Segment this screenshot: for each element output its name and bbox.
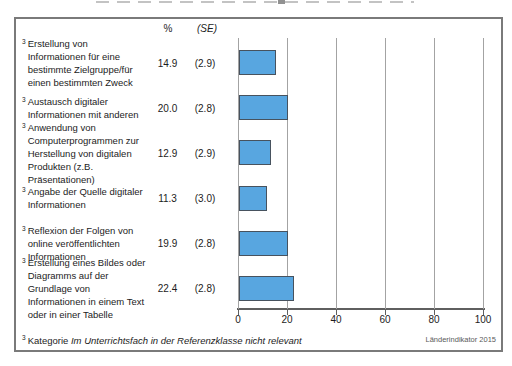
- cropped-title-fragment: [96, 0, 414, 4]
- footnote-regular-text: Kategorie: [28, 335, 71, 346]
- category-label-text: Erstellung von Informationen für eine be…: [28, 37, 133, 89]
- tick-label-100: 100: [475, 314, 492, 325]
- x-axis-line: [237, 308, 485, 310]
- footnote: 3Kategorie Im Unterrichtsfach in der Ref…: [22, 334, 302, 346]
- gridline-0: [238, 38, 239, 309]
- gridline-80: [434, 38, 435, 309]
- category-footnote-marker: 3: [22, 257, 26, 265]
- category-footnote-marker: 3: [22, 225, 26, 233]
- se-value: (2.8): [187, 238, 223, 249]
- bar-row-2: [239, 95, 288, 120]
- tick-label-80: 80: [428, 314, 439, 325]
- cropped-title-text-remnant: [96, 1, 414, 3]
- plot-area: [238, 38, 483, 309]
- se-value: (2.8): [187, 102, 223, 113]
- bar-row-3: [239, 140, 271, 165]
- percent-column-header: %: [158, 23, 178, 34]
- figure-frame: % (SE) 3Erstellung von Informationen für…: [14, 17, 503, 352]
- gridline-100: [483, 38, 484, 309]
- bar-row-5: [239, 231, 288, 256]
- percent-value: 12.9: [152, 147, 183, 158]
- tick-label-60: 60: [379, 314, 390, 325]
- category-footnote-marker: 3: [22, 186, 26, 194]
- se-value: (2.9): [187, 57, 223, 68]
- tick-label-0: 0: [235, 314, 241, 325]
- se-value: (3.0): [187, 193, 223, 204]
- source-label: Länderindikator 2015: [426, 335, 496, 344]
- percent-value: 19.9: [152, 238, 183, 249]
- percent-value: 14.9: [152, 57, 183, 68]
- footnote-marker: 3: [22, 334, 26, 341]
- percent-value: 11.3: [152, 193, 183, 204]
- category-footnote-marker: 3: [22, 96, 26, 104]
- gridline-40: [336, 38, 337, 309]
- category-footnote-marker: 3: [22, 38, 26, 46]
- category-label-text: Erstellung eines Bildes oder Diagramms a…: [28, 256, 146, 321]
- cropped-title-descender: [278, 0, 285, 4]
- category-footnote-marker: 3: [22, 121, 26, 129]
- gridline-20: [287, 38, 288, 309]
- percent-value: 20.0: [152, 102, 183, 113]
- category-label-text: Anwendung von Computerprogrammen zur Her…: [28, 120, 139, 185]
- category-label-text: Austausch digitaler Informationen mit an…: [28, 95, 139, 121]
- gridline-60: [385, 38, 386, 309]
- tick-label-40: 40: [330, 314, 341, 325]
- footnote-italic-text: Im Unterrichtsfach in der Referenzklasse…: [71, 335, 302, 346]
- se-value: (2.8): [187, 283, 223, 294]
- bar-row-6: [239, 276, 294, 301]
- category-label-text: Angabe der Quelle digitaler Informatione…: [28, 185, 143, 211]
- bar-row-4: [239, 186, 267, 211]
- tick-label-20: 20: [281, 314, 292, 325]
- se-column-header: (SE): [192, 23, 222, 34]
- bar-row-1: [239, 50, 276, 75]
- percent-value: 22.4: [152, 283, 183, 294]
- se-value: (2.9): [187, 147, 223, 158]
